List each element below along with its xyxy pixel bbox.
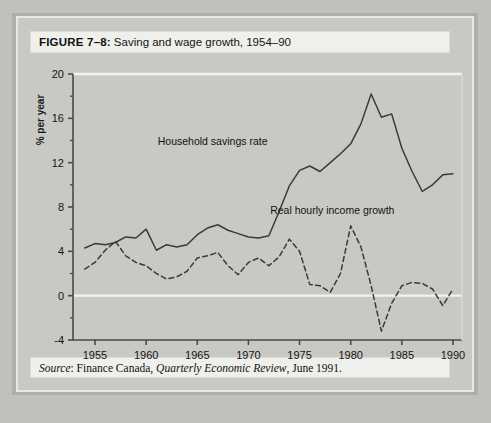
figure-root: FIGURE 7–8: Saving and wage growth, 1954…: [0, 0, 491, 423]
figure-number-label: FIGURE 7–8:: [39, 36, 111, 48]
source-publication: Quarterly Economic Review: [156, 362, 286, 374]
figure-title-bar: FIGURE 7–8: Saving and wage growth, 1954…: [30, 31, 450, 53]
source-organization: Finance Canada,: [77, 362, 157, 374]
source-line: Source: Finance Canada, Quarterly Econom…: [39, 362, 342, 374]
figure-title-text: Saving and wage growth, 1954–90: [114, 36, 291, 48]
source-prefix: Source: [39, 362, 71, 374]
figure-source-bar: Source: Finance Canada, Quarterly Econom…: [30, 357, 450, 378]
figure-panel: FIGURE 7–8: Saving and wage growth, 1954…: [16, 16, 474, 392]
source-date: , June 1991.: [286, 362, 342, 374]
